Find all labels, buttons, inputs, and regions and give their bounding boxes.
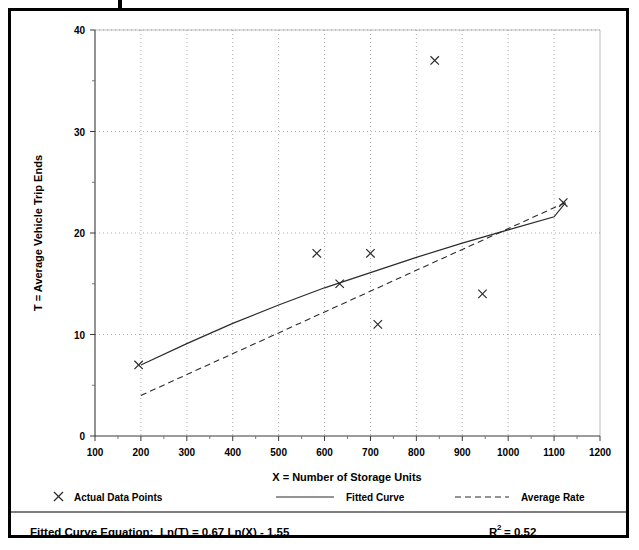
legend-label-actual-data-points: Actual Data Points <box>74 492 163 503</box>
data-point-markers <box>134 56 567 369</box>
x-tick-label: 1200 <box>589 447 612 458</box>
chart-page: 100200300400500600700800900100011001200 … <box>0 0 639 550</box>
x-tick-label: 1100 <box>543 447 565 458</box>
chart-canvas: 100200300400500600700800900100011001200 … <box>0 0 639 550</box>
horizontal-gridlines <box>95 30 600 335</box>
x-tick-label: 900 <box>454 447 471 458</box>
data-point-marker <box>313 249 321 257</box>
y-axis-title: T = Average Vehicle Trip Ends <box>32 155 44 311</box>
y-tick-label: 30 <box>74 127 86 138</box>
data-point-marker <box>478 290 486 298</box>
y-tick-label: 40 <box>74 25 86 36</box>
x-tick-label: 100 <box>87 447 104 458</box>
x-tick-label: 700 <box>362 447 379 458</box>
equation-label: Fitted Curve Equation: <box>30 526 153 538</box>
data-point-marker <box>431 56 439 64</box>
y-tick-label: 0 <box>79 431 85 442</box>
x-axis-title: X = Number of Storage Units <box>272 471 421 483</box>
footer-equation-row: Fitted Curve Equation: Ln(T) = 0.67 Ln(X… <box>30 523 536 538</box>
x-tick-label: 200 <box>133 447 150 458</box>
x-tick-label: 300 <box>178 447 195 458</box>
scatter-plot-svg: 100200300400500600700800900100011001200 … <box>0 0 639 550</box>
y-tick-label: 20 <box>74 228 86 239</box>
y-tick-label: 10 <box>74 330 86 341</box>
legend-label-fitted-curve: Fitted Curve <box>346 492 405 503</box>
x-tick-label: 500 <box>270 447 287 458</box>
r-squared-value: = 0.52 <box>504 526 536 538</box>
x-marker-icon <box>54 492 63 501</box>
x-axis-ticks <box>95 436 600 441</box>
legend-entry-fitted-curve: Fitted Curve <box>276 492 405 503</box>
legend-entry-average-rate: Average Rate <box>455 492 585 503</box>
fitted-curve-line <box>141 203 566 365</box>
legend-entry-actual-data-points: Actual Data Points <box>54 492 163 503</box>
x-tick-label: 400 <box>224 447 241 458</box>
legend-label-average-rate: Average Rate <box>521 492 585 503</box>
x-tick-label: 1000 <box>497 447 520 458</box>
legend: Actual Data Points Fitted Curve Average … <box>54 492 585 503</box>
x-tick-label: 600 <box>316 447 333 458</box>
x-tick-label: 800 <box>408 447 425 458</box>
equation-expression: Ln(T) = 0.67 Ln(X) - 1.55 <box>160 526 290 538</box>
x-axis-tick-labels: 100200300400500600700800900100011001200 <box>87 447 612 458</box>
data-point-marker <box>374 320 382 328</box>
y-axis-ticks <box>90 30 95 436</box>
r-squared-exponent: 2 <box>497 523 502 532</box>
y-axis-tick-labels: 010203040 <box>74 25 86 442</box>
